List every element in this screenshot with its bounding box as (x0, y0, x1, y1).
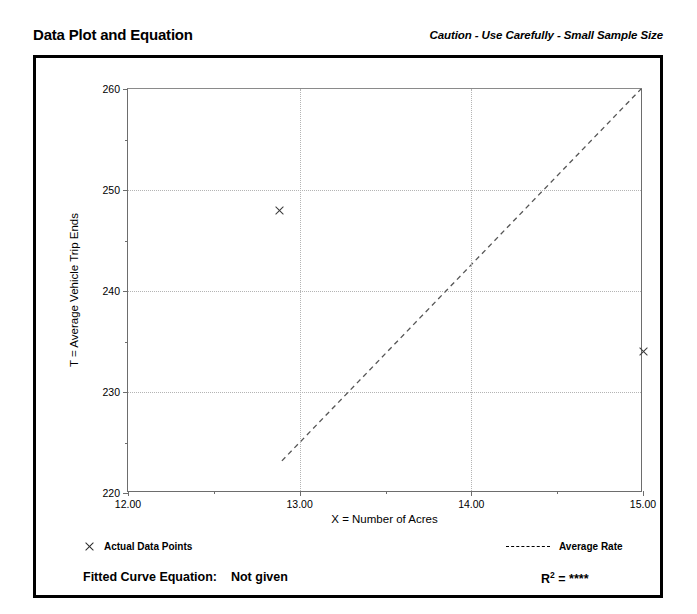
y-axis-tick-label: 250 (102, 184, 120, 196)
y-axis-tick (123, 89, 128, 90)
legend-item-average-rate: Average Rate (506, 541, 623, 552)
r-squared-value: R2 = **** (541, 570, 589, 586)
x-axis-tick-label: 12.00 (115, 498, 141, 510)
y-axis-tick-label: 240 (102, 285, 120, 297)
data-point-marker (638, 346, 649, 357)
y-axis-tick-label: 230 (102, 386, 120, 398)
x-marker-icon (83, 541, 94, 552)
x-axis-minor-tick (386, 491, 387, 494)
data-point-marker (274, 205, 285, 216)
page-title: Data Plot and Equation (33, 26, 193, 43)
y-axis-tick (123, 291, 128, 292)
x-axis-minor-tick (214, 491, 215, 494)
y-axis-tick (123, 190, 128, 191)
x-axis-title: X = Number of Acres (127, 513, 642, 525)
legend-label-actual-data-points: Actual Data Points (104, 541, 192, 552)
chart-footer: Fitted Curve Equation: Not given R2 = **… (36, 570, 666, 598)
r-squared-asterisks: **** (569, 572, 588, 586)
x-axis-tick (471, 491, 472, 496)
gridline-vertical (300, 89, 301, 491)
chart-header: Data Plot and Equation Caution - Use Car… (33, 26, 663, 52)
x-axis-tick (643, 491, 644, 496)
r-squared-label: R (541, 572, 550, 586)
gridline-horizontal (128, 291, 641, 292)
chart-panel: T = Average Vehicle Trip Ends 2202302402… (33, 55, 663, 598)
dashed-line-icon (506, 546, 550, 547)
average-rate-trendline (128, 89, 641, 491)
fitted-curve-equation-value: Not given (231, 570, 288, 584)
x-axis-minor-tick (557, 491, 558, 494)
y-axis-minor-tick (125, 443, 128, 444)
fitted-curve-equation: Fitted Curve Equation: Not given (83, 570, 288, 584)
y-axis-title: T = Average Vehicle Trip Ends (66, 88, 82, 492)
plot-area: 22023024025026012.0013.0014.0015.00 (127, 88, 642, 492)
x-axis-tick-label: 13.00 (287, 498, 313, 510)
gridline-horizontal (128, 190, 641, 191)
x-axis-tick-label: 14.00 (458, 498, 484, 510)
x-axis-tick-label: 15.00 (630, 498, 656, 510)
gridline-horizontal (128, 392, 641, 393)
y-axis-minor-tick (125, 140, 128, 141)
caution-note: Caution - Use Carefully - Small Sample S… (430, 29, 663, 41)
y-axis-tick-label: 260 (102, 83, 120, 95)
r-squared-exponent: 2 (550, 570, 555, 580)
y-axis-minor-tick (125, 342, 128, 343)
legend-label-average-rate: Average Rate (559, 541, 623, 552)
x-axis-tick (128, 491, 129, 496)
x-axis-tick (300, 491, 301, 496)
y-axis-minor-tick (125, 241, 128, 242)
y-axis-tick (123, 392, 128, 393)
r-squared-equals: = (558, 572, 565, 586)
chart-legend: Actual Data Points Average Rate (36, 541, 666, 567)
legend-item-actual-data-points: Actual Data Points (83, 541, 192, 552)
gridline-vertical (471, 89, 472, 491)
chart-region: T = Average Vehicle Trip Ends 2202302402… (36, 58, 666, 538)
fitted-curve-equation-label: Fitted Curve Equation: (83, 570, 217, 584)
